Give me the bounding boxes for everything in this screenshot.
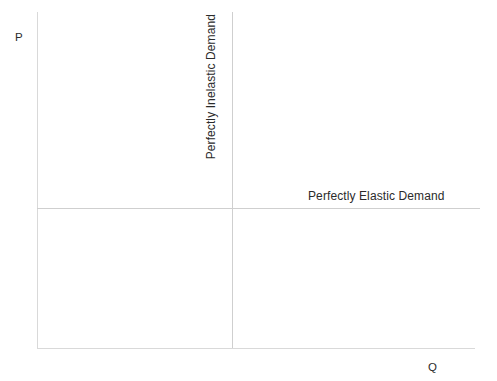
demand-curve-figure: P Q Perfectly Inelastic Demand Perfectly…	[0, 0, 497, 381]
perfectly-inelastic-demand-line	[232, 12, 233, 348]
perfectly-elastic-demand-label: Perfectly Elastic Demand	[308, 189, 444, 203]
price-axis-line	[37, 12, 38, 348]
perfectly-elastic-demand-line	[37, 208, 480, 209]
quantity-axis-label: Q	[428, 361, 437, 373]
perfectly-inelastic-demand-label: Perfectly Inelastic Demand	[204, 14, 218, 159]
perfectly-inelastic-demand-label-wrap: Perfectly Inelastic Demand	[204, 14, 228, 182]
price-axis-label: P	[15, 31, 23, 43]
quantity-axis-line	[37, 348, 475, 349]
